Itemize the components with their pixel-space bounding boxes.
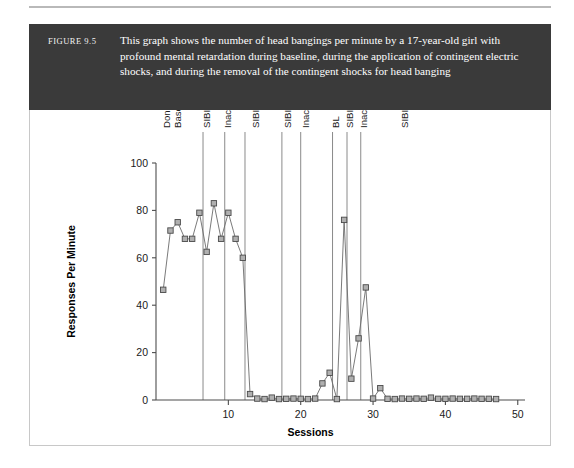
data-point-0-0 <box>161 287 166 292</box>
data-point-0-40 <box>450 396 455 401</box>
phase-label-2: Inactive <box>222 110 233 128</box>
top-rule-divider <box>29 6 551 8</box>
x-tick-label-3: 40 <box>440 408 452 420</box>
phase-label-6: BL <box>330 116 341 128</box>
y-tick-label-1: 20 <box>136 346 148 358</box>
data-point-0-21 <box>312 396 317 401</box>
data-point-0-26 <box>349 376 354 381</box>
data-point-0-25 <box>341 217 346 222</box>
x-tick-label-0: 10 <box>223 408 235 420</box>
data-point-0-10 <box>233 236 238 241</box>
phase-label-3: SIBIS <box>250 110 261 128</box>
x-tick-label-1: 20 <box>295 408 307 420</box>
data-point-0-2 <box>175 220 180 225</box>
data-point-0-44 <box>479 396 484 401</box>
data-point-0-28 <box>363 285 368 290</box>
y-tick-label-5: 100 <box>130 157 148 169</box>
data-point-0-39 <box>443 396 448 401</box>
data-point-0-13 <box>255 396 260 401</box>
data-point-0-38 <box>435 396 440 401</box>
data-point-0-36 <box>421 396 426 401</box>
data-point-0-14 <box>262 396 267 401</box>
data-point-0-29 <box>370 396 375 401</box>
data-point-0-8 <box>218 236 223 241</box>
data-point-0-41 <box>457 396 462 401</box>
figure-caption-text: This graph shows the number of head bang… <box>120 33 536 80</box>
data-point-0-24 <box>334 396 339 401</box>
data-point-0-37 <box>428 395 433 400</box>
data-point-0-3 <box>182 236 187 241</box>
data-point-0-5 <box>197 210 202 215</box>
y-tick-label-4: 80 <box>136 204 148 216</box>
figure-caption-band: FIGURE 9.5 This graph shows the number o… <box>29 24 551 110</box>
data-point-0-46 <box>493 396 498 401</box>
phase-label-5: Inactive <box>300 110 311 128</box>
data-point-0-34 <box>407 396 412 401</box>
phase-label-7: SIBIS <box>344 110 355 128</box>
data-point-0-1 <box>168 228 173 233</box>
x-axis-title: Sessions <box>287 426 333 438</box>
data-point-0-27 <box>356 336 361 341</box>
y-tick-label-0: 0 <box>142 394 148 406</box>
data-point-0-18 <box>291 396 296 401</box>
data-point-0-16 <box>276 396 281 401</box>
data-point-0-22 <box>320 381 325 386</box>
phase-label-0: Donna <box>161 110 172 128</box>
data-point-0-17 <box>284 396 289 401</box>
phase-label-8: Inactive <box>358 110 369 128</box>
data-point-0-43 <box>472 396 477 401</box>
data-point-0-31 <box>385 396 390 401</box>
data-point-0-30 <box>378 385 383 390</box>
y-axis-title: Responses Per Minute <box>65 225 77 338</box>
data-point-0-6 <box>204 249 209 254</box>
line-chart: DonnaBaselineSIBISInactiveSIBISSIBISInac… <box>29 110 551 446</box>
chart-plot-area: DonnaBaselineSIBISInactiveSIBISSIBISInac… <box>29 110 551 446</box>
data-point-0-11 <box>240 255 245 260</box>
x-tick-label-4: 50 <box>512 408 524 420</box>
y-tick-label-2: 40 <box>136 299 148 311</box>
data-point-0-4 <box>189 236 194 241</box>
y-tick-label-3: 60 <box>136 252 148 264</box>
phase-label-9: SIBIS <box>399 110 410 128</box>
data-point-0-32 <box>392 396 397 401</box>
data-point-0-42 <box>464 396 469 401</box>
figure-page: FIGURE 9.5 This graph shows the number o… <box>0 0 574 468</box>
x-tick-label-2: 30 <box>367 408 379 420</box>
data-point-0-20 <box>305 396 310 401</box>
figure-number-label: FIGURE 9.5 <box>48 36 96 46</box>
data-point-0-35 <box>414 396 419 401</box>
phase-label-0: Baseline <box>172 110 183 128</box>
data-point-0-7 <box>211 201 216 206</box>
data-point-0-12 <box>247 391 252 396</box>
data-point-0-23 <box>327 370 332 375</box>
phase-label-1: SIBIS <box>201 110 212 128</box>
data-point-0-9 <box>226 210 231 215</box>
data-point-0-15 <box>269 395 274 400</box>
data-point-0-33 <box>399 396 404 401</box>
data-point-0-19 <box>298 396 303 401</box>
data-point-0-45 <box>486 396 491 401</box>
phase-label-4: SIBIS <box>282 110 293 128</box>
